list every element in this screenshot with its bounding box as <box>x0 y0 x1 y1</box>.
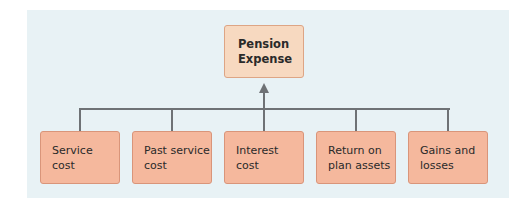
connector-interest-cost <box>263 92 265 131</box>
node-label-line2: cost <box>52 158 93 173</box>
node-label-line2: cost <box>236 158 278 173</box>
node-label-line1: Past service <box>144 143 210 158</box>
connector-service-cost <box>79 108 81 131</box>
node-label-line1: Interest <box>236 143 278 158</box>
node-label-line2: Expense <box>238 52 292 67</box>
node-label-line1: Return on <box>328 143 390 158</box>
interest-cost-node: Interest cost <box>224 131 304 184</box>
node-label-line1: Service <box>52 143 93 158</box>
pension-expense-node: Pension Expense <box>224 25 304 78</box>
node-label-line1: Pension <box>238 37 292 52</box>
node-label-line2: losses <box>420 158 475 173</box>
node-label-line2: plan assets <box>328 158 390 173</box>
gains-and-losses-node: Gains and losses <box>408 131 488 184</box>
node-label-line1: Gains and <box>420 143 475 158</box>
past-service-cost-node: Past service cost <box>132 131 212 184</box>
return-on-plan-assets-node: Return on plan assets <box>316 131 396 184</box>
node-label-line2: cost <box>144 158 210 173</box>
connector-return-on-plan-assets <box>355 108 357 131</box>
arrow-up-icon <box>259 83 269 93</box>
connector-past-service-cost <box>171 108 173 131</box>
service-cost-node: Service cost <box>40 131 120 184</box>
connector-gains-and-losses <box>447 108 449 131</box>
